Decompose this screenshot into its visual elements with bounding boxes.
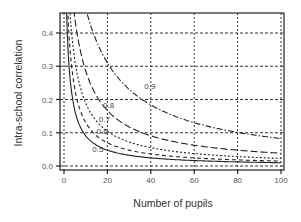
x-tick-label: 40	[146, 176, 155, 185]
x-tick-label: 100	[274, 176, 288, 185]
curve-label-0.5: 0.5	[92, 145, 104, 154]
x-tick-label: 60	[190, 176, 199, 185]
y-tick-label: 0.3	[42, 62, 54, 71]
chart: 0.90.80.70.60.5 0204060801000.00.10.20.3…	[0, 0, 301, 222]
x-tick-label: 0	[62, 176, 67, 185]
curve-0.5	[66, 0, 281, 163]
x-tick-label: 20	[103, 176, 112, 185]
y-tick-label: 0.1	[42, 129, 54, 138]
curve-labels: 0.90.80.70.60.5	[92, 82, 156, 154]
x-axis-title: Number of pupils	[133, 197, 212, 209]
curve-label-0.9: 0.9	[144, 82, 156, 91]
y-tick-label: 0.0	[42, 162, 54, 171]
curves	[66, 0, 281, 163]
curve-label-0.8: 0.8	[103, 101, 115, 110]
y-axis-title: Intra-school correlation	[12, 39, 24, 146]
curve-0.6	[66, 0, 281, 161]
curve-label-0.7: 0.7	[99, 115, 111, 124]
y-tick-label: 0.2	[42, 96, 54, 105]
curve-label-0.6: 0.6	[97, 127, 109, 136]
x-tick-label: 80	[233, 176, 242, 185]
y-tick-label: 0.4	[42, 29, 54, 38]
